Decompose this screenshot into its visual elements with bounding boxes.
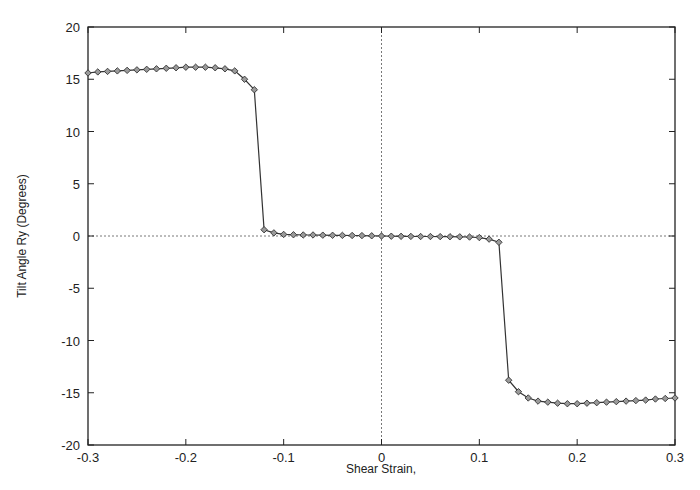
y-tick-label: 20 xyxy=(66,20,80,35)
data-point-marker xyxy=(545,399,551,405)
data-point-marker xyxy=(183,64,189,70)
data-point-marker xyxy=(564,401,570,407)
x-tick-label: -0.2 xyxy=(175,450,197,465)
data-point-marker xyxy=(124,67,130,73)
data-point-marker xyxy=(662,395,668,401)
y-tick-label: 5 xyxy=(73,177,80,192)
data-point-marker xyxy=(290,232,296,238)
data-point-marker xyxy=(417,233,423,239)
data-point-marker xyxy=(466,234,472,240)
y-tick-label: -10 xyxy=(61,334,80,349)
data-point-marker xyxy=(427,233,433,239)
data-point-marker xyxy=(134,67,140,73)
data-point-marker xyxy=(280,231,286,237)
axis-tick-labels: -0.3-0.2-0.100.10.20.3-20-15-10-50510152… xyxy=(61,20,684,465)
data-point-marker xyxy=(261,227,267,233)
y-tick-label: -5 xyxy=(68,281,80,296)
x-axis-title: Shear Strain, xyxy=(346,462,416,476)
data-point-marker xyxy=(329,232,335,238)
data-point-marker xyxy=(95,69,101,75)
data-point-marker xyxy=(104,68,110,74)
y-tick-label: -15 xyxy=(61,386,80,401)
data-point-marker xyxy=(554,400,560,406)
data-point-marker xyxy=(202,64,208,70)
data-point-marker xyxy=(339,232,345,238)
data-point-marker xyxy=(594,399,600,405)
data-point-marker xyxy=(457,234,463,240)
data-point-marker xyxy=(388,233,394,239)
y-tick-label: 10 xyxy=(66,125,80,140)
data-point-marker xyxy=(192,64,198,70)
data-point-marker xyxy=(144,66,150,72)
data-point-marker xyxy=(486,236,492,242)
data-point-marker xyxy=(613,398,619,404)
data-point-marker xyxy=(447,234,453,240)
y-tick-label: 15 xyxy=(66,72,80,87)
data-point-marker xyxy=(633,397,639,403)
y-tick-label: 0 xyxy=(73,229,80,244)
data-point-marker xyxy=(603,399,609,405)
data-point-marker xyxy=(85,70,91,76)
data-point-marker xyxy=(408,233,414,239)
data-point-marker xyxy=(271,230,277,236)
x-tick-label: -0.1 xyxy=(272,450,294,465)
data-point-marker xyxy=(437,233,443,239)
x-tick-label: -0.3 xyxy=(77,450,99,465)
data-point-marker xyxy=(310,232,316,238)
data-point-marker xyxy=(349,232,355,238)
data-point-marker xyxy=(173,65,179,71)
y-tick-label: -20 xyxy=(61,438,80,453)
data-point-marker xyxy=(574,401,580,407)
data-point-marker xyxy=(320,232,326,238)
data-point-marker xyxy=(300,232,306,238)
data-point-marker xyxy=(584,400,590,406)
data-point-marker xyxy=(642,397,648,403)
x-tick-label: 0.1 xyxy=(470,450,488,465)
x-tick-label: 0.3 xyxy=(666,450,684,465)
data-point-marker xyxy=(114,68,120,74)
data-point-marker xyxy=(535,398,541,404)
x-tick-label: 0.2 xyxy=(568,450,586,465)
data-point-marker xyxy=(398,233,404,239)
data-point-marker xyxy=(672,395,678,401)
tilt-angle-chart: -0.3-0.2-0.100.10.20.3-20-15-10-50510152… xyxy=(0,0,700,490)
data-point-marker xyxy=(212,65,218,71)
y-axis-title: Tilt Angle Ry (Degrees) xyxy=(15,174,29,298)
data-point-marker xyxy=(652,396,658,402)
data-point-marker xyxy=(525,395,531,401)
data-point-marker xyxy=(222,66,228,72)
data-point-marker xyxy=(369,233,375,239)
data-point-marker xyxy=(476,234,482,240)
data-point-marker xyxy=(153,66,159,72)
data-point-marker xyxy=(163,65,169,71)
data-point-marker xyxy=(496,239,502,245)
data-point-marker xyxy=(378,233,384,239)
data-point-marker xyxy=(359,232,365,238)
data-point-marker xyxy=(623,398,629,404)
